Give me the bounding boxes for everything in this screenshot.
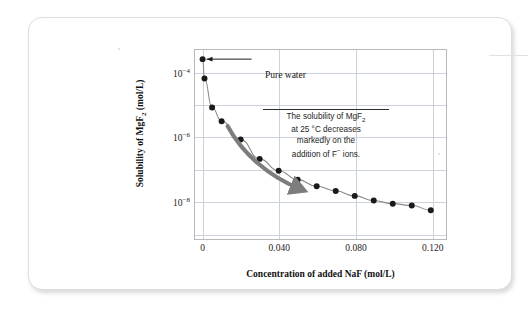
pure-water-label-text: Pure water	[265, 70, 306, 80]
y-tick-label: 10−6	[173, 131, 190, 143]
x-tick-label: 0	[200, 243, 205, 253]
data-point	[428, 207, 434, 213]
x-axis-title-text: Concentration of added NaF (mol/L)	[246, 269, 394, 279]
callout-line-4-post: ions.	[341, 150, 361, 159]
y-tick-label: 10−4	[173, 67, 190, 79]
x-axis-title: Concentration of added NaF (mol/L)	[194, 269, 447, 279]
data-point	[390, 201, 396, 207]
data-point	[371, 198, 377, 204]
callout-line-4: addition of F− ions.	[263, 146, 389, 160]
scan-speck-b	[118, 48, 120, 50]
callout-line-1: The solubility of MgF2	[263, 112, 389, 125]
x-tick-label: 0.040	[269, 243, 290, 253]
data-point	[409, 203, 415, 209]
data-point	[352, 193, 358, 199]
chart-figure: Solubility of MgF2 (mol/L) Concentration…	[69, 32, 479, 282]
data-point	[209, 105, 215, 111]
pure-water-label: Pure water	[265, 70, 306, 80]
trend-callout: The solubility of MgF2 at 25 °C decrease…	[263, 109, 389, 160]
data-point	[200, 56, 206, 62]
data-point	[295, 177, 301, 183]
scan-speck-a	[438, 153, 440, 155]
y-axis-title: Solubility of MgF2 (mol/L)	[135, 38, 148, 229]
callout-text: The solubility of MgF2 at 25 °C decrease…	[263, 112, 389, 160]
x-tick-label: 0.080	[345, 243, 366, 253]
plot-area: 00.0400.0800.12010−410−610−8	[194, 49, 447, 240]
data-point	[314, 183, 320, 189]
callout-divider	[263, 109, 389, 110]
callout-line-2: at 25 °C decreases	[263, 125, 389, 136]
scan-artifact-line	[489, 55, 528, 56]
data-point	[276, 168, 282, 174]
x-tick-label: 0.120	[422, 243, 443, 253]
callout-line-1-sub: 2	[362, 116, 365, 123]
data-point	[219, 118, 225, 124]
callout-line-3: markedly on the	[263, 136, 389, 147]
y-axis-title-sub: 2	[140, 113, 148, 117]
callout-line-4-pre: addition of F	[292, 150, 337, 159]
data-point	[333, 188, 339, 194]
y-axis-title-post: (mol/L)	[135, 80, 145, 113]
callout-line-1-pre: The solubility of MgF	[287, 112, 363, 121]
y-axis-title-pre: Solubility of MgF	[135, 116, 145, 187]
data-point	[202, 75, 208, 81]
y-tick-label: 10−8	[173, 196, 190, 208]
page-root: Solubility of MgF2 (mol/L) Concentration…	[0, 0, 528, 309]
